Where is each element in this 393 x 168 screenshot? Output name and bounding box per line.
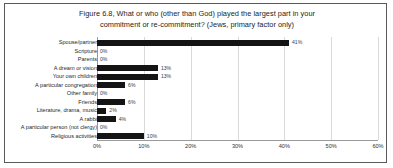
bar — [97, 65, 158, 71]
x-tick-label: 30% — [218, 142, 258, 151]
bar — [97, 133, 144, 139]
x-tick-label: 20% — [171, 142, 211, 151]
chart-title-line-1: Figure 6.8, What or who (other than God)… — [23, 8, 371, 19]
chart-title: Figure 6.8, What or who (other than God)… — [23, 8, 371, 30]
x-tick-label: 60% — [358, 142, 393, 151]
x-tick-label: 40% — [264, 142, 304, 151]
bar — [97, 74, 158, 80]
bar — [97, 99, 125, 105]
x-axis-line — [97, 140, 378, 141]
x-tick-label: 10% — [124, 142, 164, 151]
category-label: Religious activities — [0, 132, 97, 141]
plot-area: Spouse/partner41%Scripture0%Parents0%A d… — [5, 37, 388, 163]
x-tick-label: 50% — [311, 142, 351, 151]
bar — [97, 40, 289, 46]
bar — [97, 82, 125, 88]
bar — [97, 108, 106, 114]
x-tick-label: 0% — [77, 142, 117, 151]
chart-frame: Figure 6.8, What or who (other than God)… — [4, 3, 387, 163]
chart-title-line-2: commitment or re-commitment? (Jews, prim… — [23, 19, 371, 30]
bar — [97, 116, 116, 122]
